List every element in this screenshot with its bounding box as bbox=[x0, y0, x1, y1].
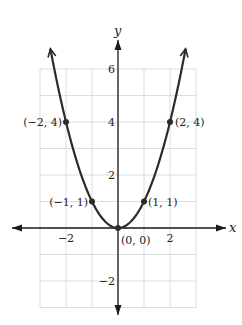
data-point bbox=[167, 119, 173, 125]
y-tick-label: 2 bbox=[108, 169, 115, 182]
point-label: (1, 1) bbox=[148, 196, 178, 209]
axes: x y bbox=[12, 23, 237, 315]
data-point bbox=[141, 199, 147, 205]
y-axis-down-arrow-icon bbox=[115, 305, 122, 315]
x-tick-label: −2 bbox=[58, 232, 74, 245]
y-tick-label: 4 bbox=[108, 116, 115, 129]
x-tick-label: 2 bbox=[167, 232, 174, 245]
data-point bbox=[63, 119, 69, 125]
point-label: (2, 4) bbox=[175, 116, 205, 129]
data-point bbox=[115, 225, 121, 231]
y-tick-label: −2 bbox=[99, 275, 115, 288]
y-axis-label: y bbox=[113, 23, 122, 38]
x-axis-label: x bbox=[229, 220, 237, 235]
y-tick-label: 6 bbox=[108, 63, 115, 76]
x-axis-right-arrow-icon bbox=[216, 225, 226, 232]
point-label: (−2, 4) bbox=[23, 116, 62, 129]
parabola-chart: x y −22642−2 (−2, 4)(−1, 1)(0, 0)(1, 1)(… bbox=[0, 0, 242, 325]
x-axis-left-arrow-icon bbox=[12, 225, 22, 232]
y-axis-up-arrow-icon bbox=[115, 40, 122, 50]
data-point bbox=[89, 199, 95, 205]
point-label: (0, 0) bbox=[121, 234, 151, 247]
point-label: (−1, 1) bbox=[49, 196, 88, 209]
